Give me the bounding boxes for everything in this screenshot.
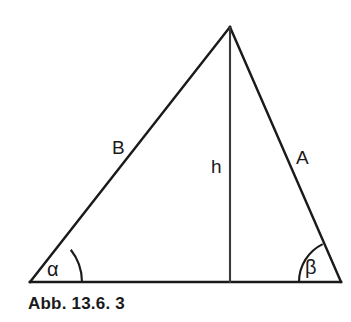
side-label-b: B [112,137,125,158]
figure-container: B A h α β Abb. 13.6. 3 [0,0,351,322]
triangle-side-a-line [230,27,341,282]
angle-label-alpha: α [47,258,59,280]
side-label-a: A [296,147,309,168]
triangle-diagram: B A h α β [0,0,351,322]
angle-arc-alpha [71,250,82,282]
figure-caption: Abb. 13.6. 3 [28,293,125,315]
triangle-side-b-line [30,27,230,282]
angle-label-beta: β [305,256,317,278]
height-label-h: h [211,156,222,177]
